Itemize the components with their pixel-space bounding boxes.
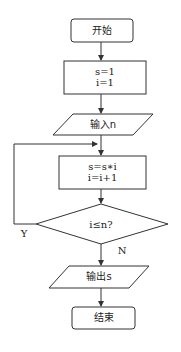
start-label: 开始 [71, 25, 133, 36]
no-branch-label: N [116, 245, 128, 256]
init-line-2: i=1 [64, 77, 146, 88]
process-line-2: i=i+1 [59, 172, 146, 183]
input-label: 输入n [53, 119, 153, 130]
process-label: s=s∗i i=i+1 [59, 161, 146, 183]
output-label: 输出s [49, 271, 149, 282]
end-label: 结束 [72, 312, 135, 323]
flowchart-canvas: 开始 s=1 i=1 输入n s=s∗i i=i+1 i≤n? Y N 输出s … [0, 0, 181, 352]
init-line-1: s=1 [64, 66, 146, 77]
process-line-1: s=s∗i [59, 161, 146, 172]
yes-branch-label: Y [18, 228, 30, 239]
init-label: s=1 i=1 [64, 66, 146, 88]
decision-label: i≤n? [71, 219, 131, 230]
